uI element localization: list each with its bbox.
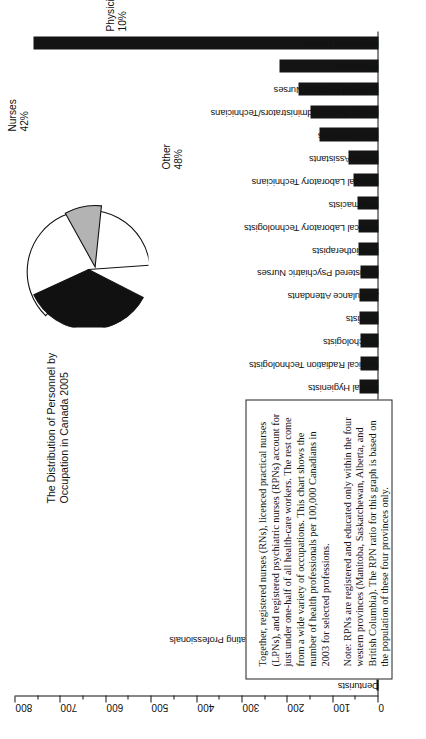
bar-category-label: Physiotherapists: [311, 245, 378, 254]
bar-category-label: Denturists: [337, 680, 378, 689]
rotated-page: DenturistsCardiology TechnologistsOther …: [0, 0, 426, 739]
axis-tick-label: 200: [287, 702, 304, 713]
bar-category-label: Health Record Administrators/Technicians: [210, 107, 378, 116]
axis-tick-label: 0: [378, 702, 384, 713]
pie-label-other: Other 48%: [160, 144, 184, 169]
bar-category-label: Dental Hygienists: [307, 382, 378, 391]
pie-svg: [24, 203, 148, 327]
bar-category-label: Psychologists: [322, 336, 378, 345]
bar-slot: Physicians: [15, 59, 378, 72]
bar-category-label: Dentists: [345, 313, 378, 322]
page-frame: DenturistsCardiology TechnologistsOther …: [0, 0, 426, 739]
pie-label-physicians-percent: 10%: [116, 11, 127, 31]
pie-label-other-name: Other: [160, 144, 171, 169]
bar-slot: Social Workers: [15, 127, 378, 140]
axis-tick-label: 500: [151, 702, 168, 713]
pie-label-physicians-name: Physicians: [104, 0, 115, 31]
bar-category-label: Ambulance Attendants: [287, 290, 378, 299]
note-paragraph-2: Note: RPNs are registered and educated o…: [341, 412, 391, 666]
bar-slot: Medical Laboratory Technicians: [15, 173, 378, 186]
bar-category-label: Medical Radiation Technologists: [248, 359, 378, 368]
pie-chart-title: The Distribution of Personnel by Occupat…: [44, 333, 70, 503]
axis-tick-label: 400: [197, 702, 214, 713]
pie-label-other-percent: 48%: [172, 149, 183, 169]
axis-tick-label: 100: [333, 702, 350, 713]
axis-tick-label: 700: [60, 702, 77, 713]
bar-category-label: Physicians: [335, 61, 378, 70]
bar-category-label: Dental Assistants: [308, 153, 378, 162]
pie-label-nurses-percent: 42%: [18, 111, 29, 131]
bar-category-label: Medical Laboratory Technologists: [243, 222, 378, 231]
pie-label-nurses: Nurses 42%: [6, 99, 30, 131]
bar-slot: Registered Nurses: [15, 36, 378, 49]
note-box: Together, registered nurses (RNs), licen…: [245, 399, 392, 679]
pie-label-physicians: Physicians 10%: [104, 0, 128, 31]
axis-tick-label: 300: [242, 702, 259, 713]
bar-category-label: Social Workers: [317, 130, 378, 139]
axis-tick-label: 600: [106, 702, 123, 713]
pie-chart-inset: The Distribution of Personnel by Occupat…: [18, 203, 208, 503]
axis-tick-label: 800: [15, 702, 32, 713]
pie-label-nurses-name: Nurses: [6, 99, 17, 131]
value-axis-spine: [15, 695, 378, 696]
bar-category-label: Pharmacists: [328, 199, 378, 208]
bar-slot: Health Record Administrators/Technicians: [15, 105, 378, 118]
bar-slot: Licensed Practical Nurses: [15, 82, 378, 95]
note-paragraph-1: Together, registered nurses (RNs), licen…: [256, 412, 332, 666]
bar-slot: Dental Assistants: [15, 150, 378, 163]
pie-chart-graphic: Nurses 42% Physicians 10% Other 48%: [24, 203, 148, 327]
bar-category-label: Medical Laboratory Technicians: [251, 176, 378, 185]
bar-category-label: Licensed Practical Nurses: [273, 84, 378, 93]
bar-category-label: Registered Nurses: [303, 38, 378, 47]
bar-category-label: Registered Psychiatric Nurses: [256, 267, 378, 276]
